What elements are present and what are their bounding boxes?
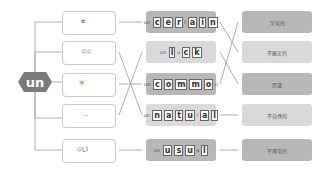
letter: c: [182, 47, 191, 58]
letter: l: [201, 145, 208, 156]
meaning-card-4[interactable]: 不自然的: [242, 104, 312, 126]
letter: o: [204, 79, 214, 90]
letter: u: [185, 110, 195, 121]
letter: n: [215, 81, 218, 87]
prefix-text: un: [160, 49, 166, 55]
faces-icon: ☺☺: [81, 48, 91, 54]
letter: u: [163, 145, 173, 156]
letter: n: [152, 110, 162, 121]
letter: u: [177, 49, 180, 55]
letter: t: [184, 19, 186, 25]
word-card-uncommon[interactable]: un common: [146, 73, 216, 95]
letter: r: [196, 112, 198, 118]
letter: e: [163, 17, 172, 28]
picture-5: ☺💬: [62, 139, 116, 163]
meaning-card-2[interactable]: 不確定的: [242, 41, 312, 63]
meaning-card-1[interactable]: 罕見的: [242, 11, 312, 33]
letter: u: [185, 145, 195, 156]
prefix-badge: un: [18, 72, 52, 92]
prefix-text: un: [143, 112, 149, 118]
letter: l: [211, 110, 218, 121]
picture-4: 〰: [62, 104, 116, 128]
letter: l: [169, 47, 176, 58]
speech-bubble-icon: ☺💬: [77, 146, 88, 152]
letter: t: [175, 110, 183, 121]
letter: a: [200, 110, 209, 121]
word-card-unusual[interactable]: un usual: [146, 139, 216, 161]
prefix-text: un: [144, 81, 150, 87]
prefix-text: un: [154, 147, 160, 153]
dog-icon: 🐕: [79, 80, 85, 86]
letter: a: [188, 17, 197, 28]
letter: n: [208, 17, 218, 28]
letter: r: [175, 17, 183, 28]
letter: a: [196, 147, 199, 153]
picture-2: ☺☺: [62, 41, 116, 65]
letter: m: [189, 79, 201, 90]
meaning-card-3[interactable]: 厄運: [242, 73, 312, 95]
prefix-text: un: [144, 19, 150, 25]
letter: k: [192, 47, 201, 58]
word-card-unnatural[interactable]: un natural: [146, 104, 216, 126]
picture-3: 🐕: [62, 73, 116, 97]
spring-icon: 〰: [83, 111, 88, 118]
letter: c: [153, 17, 162, 28]
letter: m: [175, 79, 187, 90]
letter: a: [164, 110, 173, 121]
word-card-uncertain[interactable]: un certain: [146, 11, 216, 33]
letter: o: [164, 79, 174, 90]
word-card-unluck[interactable]: un luck: [146, 41, 216, 63]
letter: i: [199, 17, 206, 28]
picture-1: ✿: [62, 11, 116, 35]
meaning-card-5[interactable]: 不尋常的: [242, 139, 312, 161]
letter: c: [153, 79, 162, 90]
people-cheering-icon: ✿: [81, 18, 85, 24]
letter: s: [174, 145, 183, 156]
